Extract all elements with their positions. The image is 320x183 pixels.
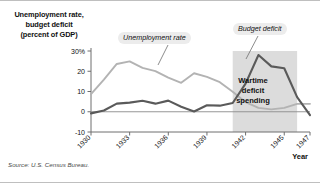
y-tick-label: 10 bbox=[77, 88, 85, 95]
wartime-label-line-2: deficit bbox=[224, 86, 282, 96]
wartime-label-line-1: Wartime bbox=[224, 76, 282, 86]
x-tick-label: 1933 bbox=[114, 134, 130, 150]
y-tick-label: 30% bbox=[71, 48, 85, 55]
x-tick-label: 1939 bbox=[192, 134, 208, 150]
x-tick-label: 1930 bbox=[76, 134, 92, 150]
x-tick-label: 1936 bbox=[153, 134, 169, 150]
x-tick-label: 1942 bbox=[230, 134, 246, 150]
chart-figure: Unemployment rate, budget deficit (perce… bbox=[0, 0, 320, 183]
y-tick-label: 0 bbox=[81, 108, 85, 115]
callout-budget-deficit: Budget deficit bbox=[233, 23, 287, 35]
wartime-label-line-3: spending bbox=[224, 96, 282, 106]
leader-line-unemployment bbox=[158, 45, 168, 65]
label-wartime-deficit-spending: Wartime deficit spending bbox=[224, 76, 282, 106]
callout-unemployment-rate: Unemployment rate bbox=[118, 32, 191, 44]
x-tick-label: 1947 bbox=[295, 134, 311, 150]
x-tick-label: 1945 bbox=[269, 134, 285, 150]
y-tick-label: 20 bbox=[77, 68, 85, 75]
y-tick-label: -10 bbox=[75, 129, 85, 136]
source-note: Source: U.S. Census Bureau. bbox=[8, 161, 89, 168]
x-axis-name: Year bbox=[292, 152, 308, 161]
